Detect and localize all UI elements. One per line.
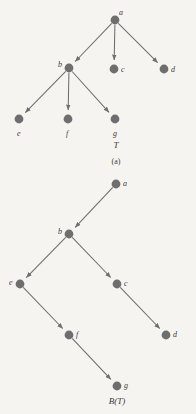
labels-layer: abcdefgT(a)abecfdgB(T) [9, 8, 178, 406]
node-label-f: f [66, 129, 70, 138]
node-label-b: b [58, 60, 62, 69]
edge-e-to-f [23, 287, 63, 328]
graph-node-d [162, 331, 171, 340]
edge-a-to-c [114, 25, 115, 60]
graph-node-c [113, 280, 122, 289]
edge-a-to-d [118, 23, 157, 62]
panel-title-panel-a: T [113, 140, 119, 150]
graph-node-f [64, 115, 73, 124]
edge-a-to-b [75, 23, 112, 61]
panel-caption-panel-a: (a) [112, 157, 121, 166]
node-label-c: c [124, 279, 128, 288]
graph-node-b [65, 230, 74, 239]
graph-node-d [160, 65, 169, 74]
node-label-f: f [76, 330, 80, 339]
edge-c-to-d [120, 287, 160, 328]
node-label-c: c [121, 65, 125, 74]
node-label-a: a [123, 179, 127, 188]
node-label-g: g [124, 381, 128, 390]
edge-b-to-f [68, 73, 69, 110]
node-label-a: a [119, 8, 123, 17]
graph-node-g [111, 115, 120, 124]
graph-node-e [15, 115, 24, 124]
node-label-d: d [173, 330, 178, 339]
node-label-b: b [58, 227, 62, 236]
panel-title-panel-b: B(T) [109, 396, 126, 406]
graph-node-b [65, 64, 74, 73]
edge-f-to-g [72, 338, 111, 379]
nodes-layer [15, 16, 171, 391]
edge-b-to-e [26, 237, 65, 277]
edge-b-to-g [72, 71, 109, 112]
graph-node-a [112, 180, 121, 189]
graph-svg: abcdefgT(a)abecfdgB(T) [0, 0, 196, 414]
edge-b-to-e [25, 71, 65, 112]
figure-canvas: abcdefgT(a)abecfdgB(T) [0, 0, 196, 414]
edge-b-to-c [72, 237, 111, 277]
graph-node-g [113, 382, 122, 391]
graph-node-e [16, 280, 25, 289]
node-label-e: e [17, 129, 21, 138]
edges-layer [23, 23, 160, 379]
node-label-d: d [171, 65, 176, 74]
node-label-e: e [9, 278, 13, 287]
graph-node-f [65, 331, 74, 340]
node-label-g: g [113, 129, 117, 138]
edge-a-to-b [75, 187, 113, 227]
graph-node-c [110, 65, 119, 74]
